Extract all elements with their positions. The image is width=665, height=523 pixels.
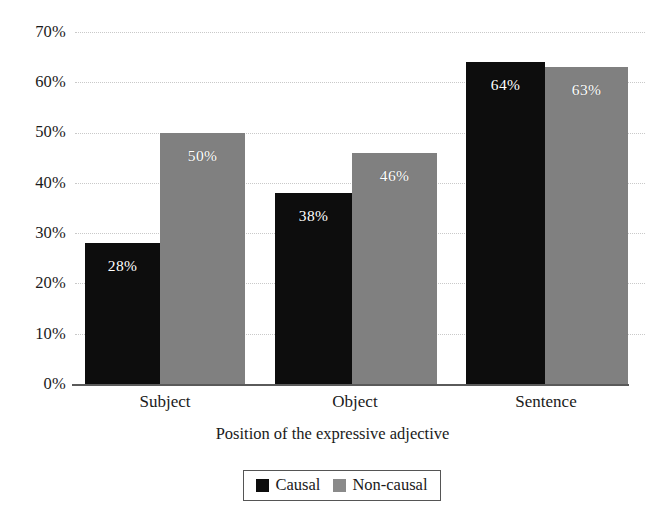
legend-entry-noncausal: Non-causal — [333, 477, 427, 494]
y-tick-label-10: 10% — [4, 326, 66, 343]
x-axis-title: Position of the expressive adjective — [0, 424, 665, 444]
y-tick-label-50: 50% — [4, 124, 66, 141]
bar-subject-causal: 28% — [85, 243, 160, 384]
bar-sentence-noncausal: 63% — [545, 67, 628, 384]
x-tick-label-object: Object — [290, 392, 420, 412]
bar-value-sentence-noncausal: 63% — [545, 81, 628, 99]
bar-object-noncausal: 46% — [352, 153, 437, 384]
x-tick-label-sentence: Sentence — [481, 392, 611, 412]
bar-subject-noncausal: 50% — [160, 133, 245, 384]
x-axis-line — [72, 384, 629, 386]
y-tick-label-70: 70% — [4, 24, 66, 41]
bar-chart: 28% 50% 38% 46% 64% 63% 70% 60% 50% 40% … — [0, 0, 665, 523]
bar-sentence-causal: 64% — [466, 62, 545, 384]
y-tick-label-30: 30% — [4, 225, 66, 242]
gridline-70 — [75, 32, 645, 33]
y-tick-label-60: 60% — [4, 74, 66, 91]
bar-object-causal: 38% — [275, 193, 352, 384]
bar-value-object-noncausal: 46% — [352, 167, 437, 185]
legend-swatch-noncausal-icon — [333, 479, 346, 492]
y-tick-label-20: 20% — [4, 275, 66, 292]
bar-value-subject-causal: 28% — [85, 257, 160, 275]
legend-label-causal: Causal — [275, 477, 320, 494]
chart-legend: Causal Non-causal — [243, 470, 441, 501]
legend-swatch-causal-icon — [256, 479, 269, 492]
bar-value-object-causal: 38% — [275, 207, 352, 225]
bar-value-subject-noncausal: 50% — [160, 147, 245, 165]
legend-entry-causal: Causal — [256, 477, 320, 494]
x-tick-label-subject: Subject — [100, 392, 230, 412]
legend-label-noncausal: Non-causal — [352, 477, 427, 494]
y-tick-label-0: 0% — [4, 376, 66, 393]
bar-value-sentence-causal: 64% — [466, 76, 545, 94]
plot-area: 28% 50% 38% 46% 64% 63% — [75, 32, 645, 384]
y-tick-label-40: 40% — [4, 175, 66, 192]
